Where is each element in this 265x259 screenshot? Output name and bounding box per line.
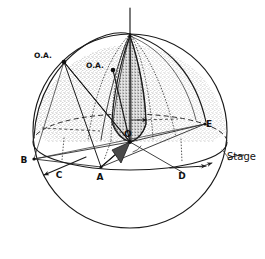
drop-line-d xyxy=(181,139,182,162)
sphere-diagram-canvas: O.A. O.A. O A B C D E Stage xyxy=(0,0,265,259)
label-stage: Stage xyxy=(227,151,256,162)
node-a xyxy=(99,165,102,168)
label-c: C xyxy=(56,170,63,180)
label-a: A xyxy=(97,172,104,182)
node-optic-axis-right xyxy=(111,68,116,73)
node-pole-top xyxy=(128,34,131,37)
label-optic-axis-right: O.A. xyxy=(86,61,104,70)
optic-axis-sphere-figure: O.A. O.A. O A B C D E Stage xyxy=(0,0,265,259)
label-d: D xyxy=(178,171,185,181)
node-origin xyxy=(128,140,132,144)
node-optic-axis-left xyxy=(62,60,67,65)
label-origin: O xyxy=(124,129,132,139)
label-e: E xyxy=(206,119,212,129)
label-b: B xyxy=(21,155,28,165)
label-optic-axis-left: O.A. xyxy=(34,51,52,60)
node-b xyxy=(32,157,35,160)
